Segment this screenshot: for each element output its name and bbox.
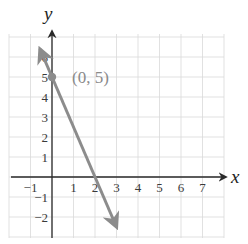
y-tick-label: −1 xyxy=(34,190,48,205)
y-tick-label: 1 xyxy=(42,150,49,165)
x-tick-label: 3 xyxy=(113,180,120,195)
y-tick-label: 3 xyxy=(42,110,49,125)
y-tick-label: 4 xyxy=(42,90,49,105)
x-tick-label: 5 xyxy=(156,180,163,195)
y-tick-label: 5 xyxy=(42,70,49,85)
x-tick-label: 4 xyxy=(135,180,142,195)
y-tick-label: −2 xyxy=(34,210,48,225)
y-axis-title: y xyxy=(42,3,53,24)
y-tick-label: 2 xyxy=(42,130,49,145)
x-axis-title: x xyxy=(230,166,240,187)
x-tick-label: 6 xyxy=(178,180,185,195)
point-marker xyxy=(48,73,56,81)
x-tick-label: 7 xyxy=(199,180,206,195)
coordinate-graph: −11234567−2−1123456 (0, 5) x y xyxy=(0,0,248,244)
plot-points: (0, 5) xyxy=(48,68,109,87)
point-label: (0, 5) xyxy=(72,68,109,87)
x-tick-label: 1 xyxy=(70,180,77,195)
